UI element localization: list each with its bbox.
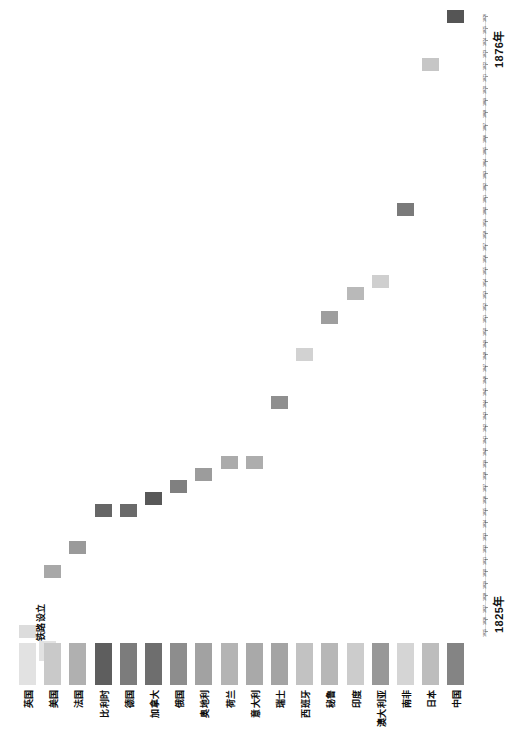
- legend-label: 瑞士: [274, 689, 287, 708]
- legend-item-奥地利[interactable]: 奥地利: [195, 643, 212, 753]
- axis-tick-label: 1850: [484, 327, 488, 335]
- axis-tick-label: 1842: [484, 424, 488, 432]
- legend-item-美国[interactable]: 美国: [44, 643, 61, 753]
- axis-tick-label: 1851: [484, 315, 488, 323]
- legend-item-南非[interactable]: 南非: [397, 643, 414, 753]
- legend-item-比利时[interactable]: 比利时: [95, 643, 112, 753]
- axis-tick-label: 1825: [484, 629, 488, 637]
- axis-tick-label: 1854: [484, 279, 488, 287]
- axis-tick-label: 1869: [484, 98, 488, 106]
- axis-tick-label: 1860: [484, 207, 488, 215]
- legend-item-法国[interactable]: 法国: [69, 643, 86, 753]
- axis-tick-label: 1859: [484, 219, 488, 227]
- axis-tick-label: 1830: [484, 569, 488, 577]
- chart-root: 1876年 1825年 1825182618271828182918301831…: [0, 0, 510, 753]
- legend-item-英国[interactable]: 英国: [19, 643, 36, 753]
- axis-tick-label: 1848: [484, 352, 488, 360]
- legend-item-加拿大[interactable]: 加拿大: [145, 643, 162, 753]
- axis-tick-label: 1835: [484, 508, 488, 516]
- legend-swatch: [321, 643, 338, 685]
- plot-area: [0, 0, 510, 753]
- axis-tick-label: 1870: [484, 86, 488, 94]
- data-point: [296, 348, 313, 361]
- legend-swatch: [221, 643, 238, 685]
- legend-swatch: [296, 643, 313, 685]
- axis-tick-label: 1841: [484, 436, 488, 444]
- legend-swatch: [246, 643, 263, 685]
- legend-item-日本[interactable]: 日本: [422, 643, 439, 753]
- axis-tick-label: 1836: [484, 496, 488, 504]
- legend-item-意大利[interactable]: 意大利: [246, 643, 263, 753]
- legend-swatch: [271, 643, 288, 685]
- legend-swatch: [195, 643, 212, 685]
- axis-tick-label: 1840: [484, 448, 488, 456]
- legend-swatch: [397, 643, 414, 685]
- data-point: [347, 287, 364, 300]
- legend-swatch: [447, 643, 464, 685]
- axis-tick-label: 1847: [484, 364, 488, 372]
- axis-tick-label: 1832: [484, 544, 488, 552]
- legend-item-德国[interactable]: 德国: [120, 643, 137, 753]
- axis-tick-label: 1827: [484, 605, 488, 613]
- axis-tick-label: 1876: [484, 14, 488, 22]
- legend-swatch: [44, 643, 61, 685]
- legend-label: 日本: [425, 689, 438, 708]
- legend-label: 意大利: [248, 689, 261, 718]
- data-point: [246, 456, 263, 469]
- legend-item-中国[interactable]: 中国: [447, 643, 464, 753]
- axis-tick-label: 1839: [484, 460, 488, 468]
- axis-tick-label: 1868: [484, 110, 488, 118]
- data-point: [447, 10, 464, 23]
- axis-tick-label: 1855: [484, 267, 488, 275]
- legend-item-澳大利亚[interactable]: 澳大利亚: [372, 643, 389, 753]
- legend-label: 中国: [450, 689, 463, 708]
- legend-label: 英国: [22, 689, 35, 708]
- legend-item-荷兰[interactable]: 荷兰: [221, 643, 238, 753]
- legend-item-西班牙[interactable]: 西班牙: [296, 643, 313, 753]
- axis-tick-label: 1858: [484, 231, 488, 239]
- legend-label: 加拿大: [148, 689, 161, 718]
- axis-tick-label: 1862: [484, 183, 488, 191]
- legend-label: 澳大利亚: [374, 689, 387, 727]
- data-point: [271, 396, 288, 409]
- axis-start-label: 1825年: [490, 595, 506, 633]
- legend-label: 奥地利: [198, 689, 211, 718]
- legend-item-俄国[interactable]: 俄国: [170, 643, 187, 753]
- legend-label: 荷兰: [223, 689, 236, 708]
- series-legend-label: 铁路设立: [34, 603, 47, 641]
- legend-item-瑞士[interactable]: 瑞士: [271, 643, 288, 753]
- category-legend: 英国美国法国比利时德国加拿大俄国奥地利荷兰意大利瑞士西班牙秘鲁印度澳大利亚南非日…: [0, 643, 510, 753]
- data-point: [44, 565, 61, 578]
- axis-tick-label: 1863: [484, 171, 488, 179]
- axis-tick-label: 1844: [484, 400, 488, 408]
- legend-swatch: [69, 643, 86, 685]
- data-point: [221, 456, 238, 469]
- axis-tick-label: 1857: [484, 243, 488, 251]
- axis-tick-label: 1861: [484, 195, 488, 203]
- axis-end-label: 1876年: [490, 30, 506, 68]
- legend-label: 比利时: [97, 689, 110, 718]
- data-point: [372, 275, 389, 288]
- legend-swatch: [422, 643, 439, 685]
- legend-swatch: [145, 643, 162, 685]
- legend-item-秘鲁[interactable]: 秘鲁: [321, 643, 338, 753]
- axis-tick-label: 1843: [484, 412, 488, 420]
- axis-tick-label: 1871: [484, 74, 488, 82]
- legend-label: 德国: [122, 689, 135, 708]
- axis-tick-label: 1864: [484, 159, 488, 167]
- axis-tick-label: 1853: [484, 291, 488, 299]
- legend-item-印度[interactable]: 印度: [347, 643, 364, 753]
- legend-label: 印度: [349, 689, 362, 708]
- legend-swatch: [347, 643, 364, 685]
- legend-swatch: [19, 643, 36, 685]
- axis-tick-label: 1838: [484, 472, 488, 480]
- data-point: [195, 468, 212, 481]
- data-point: [397, 203, 414, 216]
- legend-swatch: [120, 643, 137, 685]
- axis-tick-label: 1846: [484, 376, 488, 384]
- data-point: [145, 492, 162, 505]
- data-point: [321, 311, 338, 324]
- data-point: [69, 541, 86, 554]
- legend-label: 秘鲁: [324, 689, 337, 708]
- axis-tick-label: 1833: [484, 532, 488, 540]
